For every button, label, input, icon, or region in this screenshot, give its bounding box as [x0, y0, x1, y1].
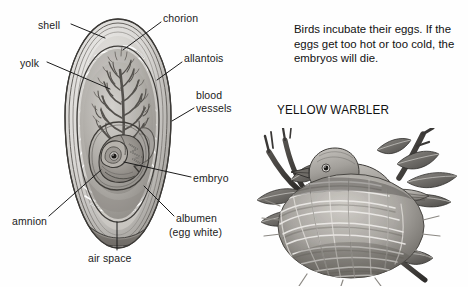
label-embryo: embryo	[193, 172, 229, 184]
label-vessels: vessels	[196, 102, 232, 114]
yellow-warbler-nest-illustration	[247, 128, 462, 286]
label-shell: shell	[38, 19, 60, 31]
label-yolk: yolk	[20, 57, 39, 69]
egg-cross-section-illustration	[55, 16, 181, 252]
label-chorion: chorion	[163, 12, 198, 24]
label-egg-white: (egg white)	[169, 226, 222, 238]
incubation-body-text: Birds incubate their eggs. If the eggs g…	[294, 22, 458, 66]
label-amnion: amnion	[12, 215, 47, 227]
embryo-figure	[99, 135, 143, 182]
species-caption: YELLOW WARBLER	[277, 103, 389, 117]
label-albumen: albumen	[176, 212, 217, 224]
figure-page: shell chorion allantois yolk blood vesse…	[0, 0, 468, 287]
inner-sac	[80, 47, 156, 219]
label-blood: blood	[196, 89, 222, 101]
label-air-space: air space	[88, 252, 132, 264]
label-allantois: allantois	[184, 52, 223, 64]
